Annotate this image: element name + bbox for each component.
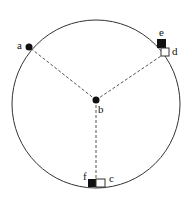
marker-f-filled-square [88, 179, 96, 187]
marker-e-filled-square [157, 39, 166, 48]
label-e: e [159, 26, 164, 38]
diagram-canvas: a b c d e f [0, 0, 192, 198]
radius-b-to-a [29, 47, 96, 100]
marker-c-open-square [96, 179, 105, 187]
label-a: a [17, 39, 22, 51]
point-a [26, 44, 33, 51]
circle-diagram: a b c d e f [0, 0, 192, 198]
radius-b-to-d [96, 56, 161, 100]
label-d: d [172, 45, 178, 57]
label-c: c [109, 172, 114, 184]
marker-d-open-square [161, 48, 169, 56]
label-f: f [83, 170, 87, 182]
label-b: b [98, 103, 104, 115]
